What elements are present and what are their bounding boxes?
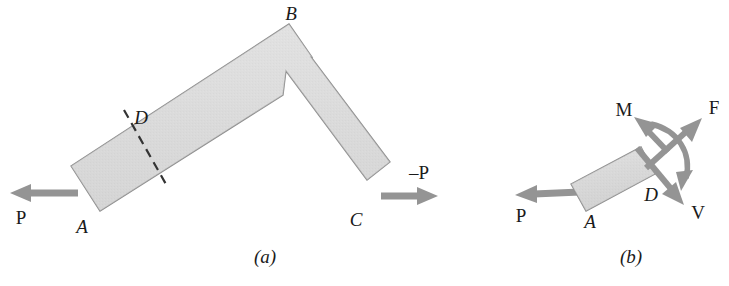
label-force-P: P bbox=[516, 205, 527, 226]
label-force-F: F bbox=[709, 97, 720, 118]
caption-panel-b: (b) bbox=[620, 246, 642, 268]
label-point-A: A bbox=[582, 211, 596, 232]
bent-bar-ABC bbox=[71, 24, 390, 211]
caption-panel-a: (a) bbox=[254, 246, 276, 268]
label-point-B: B bbox=[285, 3, 297, 24]
bar-texture bbox=[71, 24, 390, 211]
label-force-M: M bbox=[616, 99, 633, 120]
force-arrow-P-left bbox=[10, 184, 78, 202]
arrow-head bbox=[417, 187, 438, 205]
label-force-V: V bbox=[691, 202, 705, 223]
label-force-P-left: P bbox=[16, 207, 27, 228]
label-force-P-right: –P bbox=[408, 162, 429, 183]
force-arrow-P bbox=[515, 185, 580, 203]
arrow-shaft bbox=[534, 192, 580, 194]
panel-a: A B C D P –P (a) bbox=[10, 3, 438, 268]
arrow-head bbox=[515, 185, 537, 203]
arrow-head bbox=[10, 184, 31, 202]
label-point-A: A bbox=[74, 216, 88, 237]
figure-container: A B C D P –P (a) bbox=[0, 0, 729, 286]
force-arrow-P-right bbox=[381, 187, 438, 205]
mechanics-figure: A B C D P –P (a) bbox=[0, 0, 729, 286]
arrow-head bbox=[680, 118, 702, 142]
label-point-D: D bbox=[133, 107, 148, 128]
arc-head bbox=[676, 170, 693, 191]
label-point-C: C bbox=[350, 209, 363, 230]
label-point-D: D bbox=[643, 184, 658, 205]
panel-b: A D P M F V (b) bbox=[515, 97, 719, 268]
